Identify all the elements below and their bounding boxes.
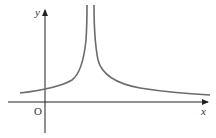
curve-left-branch — [20, 5, 87, 93]
y-axis-label: y — [35, 7, 40, 18]
x-axis-label: x — [201, 106, 206, 117]
graph-figure: y x O — [0, 0, 216, 138]
curve-right-branch — [94, 5, 210, 95]
origin-label: O — [34, 106, 42, 117]
graph-canvas — [0, 0, 216, 138]
